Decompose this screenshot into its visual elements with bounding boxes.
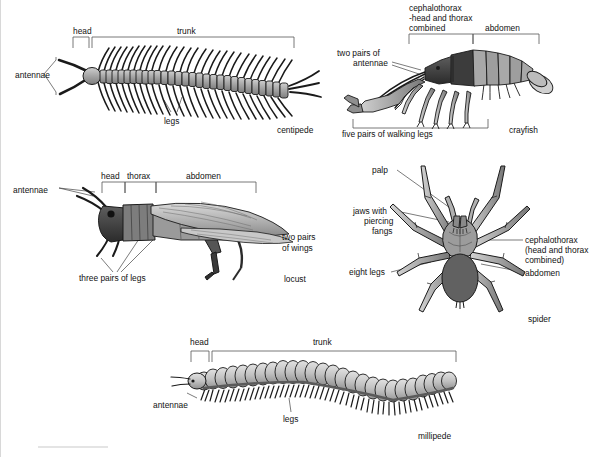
millipede-antennae (171, 377, 190, 386)
centipede-tail-legs (289, 71, 321, 97)
centipede-label-legs: legs (164, 117, 179, 127)
spider-abdomen (442, 254, 478, 302)
diagram-page: head trunk antennae legs centipede cepha… (0, 0, 606, 457)
centipede-bracket-label-trunk: trunk (177, 27, 196, 37)
spider-label-fangs: fangs (372, 227, 393, 237)
crayfish-antennae-leaders (392, 62, 421, 74)
locust-bracket-label-abdomen: abdomen (186, 172, 221, 182)
millipede-brackets (191, 351, 456, 362)
spider-figure (390, 166, 530, 312)
centipede-caption: centipede (277, 126, 313, 136)
millipede-bracket-label-trunk: trunk (313, 338, 332, 348)
locust-label-three-pairs-of-legs: three pairs of legs (79, 274, 146, 284)
millipede-label-antennae: antennae (153, 401, 188, 411)
crayfish-walking-legs (402, 84, 471, 124)
centipede-label-antennae: antennae (15, 71, 50, 81)
locust-label-antennae: antennae (13, 186, 48, 196)
crayfish-tail-fan (524, 68, 556, 98)
millipede-figure (171, 351, 457, 415)
locust-brackets (102, 182, 256, 193)
locust-bracket-label-head: head (101, 172, 120, 182)
locust-label-of-wings: of wings (282, 244, 313, 254)
crayfish-caption: crayfish (509, 126, 538, 136)
millipede-bracket-label-head: head (190, 338, 209, 348)
crayfish-label-walking-legs: five pairs of walking legs (342, 130, 433, 140)
crayfish-bracket-label-ceph-3: combined (409, 24, 445, 34)
locust-bracket-label-thorax: thorax (127, 172, 150, 182)
centipede-bracket-label-head: head (73, 27, 92, 37)
crayfish-label-antennae: antennae (353, 59, 388, 69)
crayfish-bracket-label-abdomen: abdomen (485, 24, 520, 34)
locust-eye (107, 210, 114, 217)
diagram-canvas (1, 0, 606, 457)
spider-label-palp: palp (372, 166, 388, 176)
crayfish-cephalothorax (451, 50, 475, 86)
millipede-label-legs: legs (283, 415, 298, 425)
centipede-figure (44, 37, 321, 119)
spider-label-ceph-3: combined) (525, 256, 564, 266)
locust-caption: locust (284, 275, 306, 285)
millipede-head (188, 373, 206, 389)
millipede-caption: millipede (418, 432, 451, 442)
centipede-brackets (73, 37, 294, 48)
spider-caption: spider (528, 315, 551, 325)
crayfish-eye (436, 66, 440, 70)
crayfish-abdomen (473, 50, 533, 86)
locust-figure (59, 182, 293, 280)
locust-label-two-pairs: two pairs (282, 233, 316, 243)
millipede-legs-leader (289, 398, 291, 412)
spider-label-eight-legs: eight legs (349, 268, 385, 278)
crayfish-swimmerets (482, 83, 520, 100)
millipede-antennae-leader (187, 393, 197, 398)
millipede-eye (191, 379, 194, 382)
spider-spinnerets (456, 301, 464, 309)
centipede-head (83, 68, 101, 85)
spider-label-abdomen: abdomen (525, 269, 560, 279)
crayfish-rostrum (425, 56, 453, 84)
